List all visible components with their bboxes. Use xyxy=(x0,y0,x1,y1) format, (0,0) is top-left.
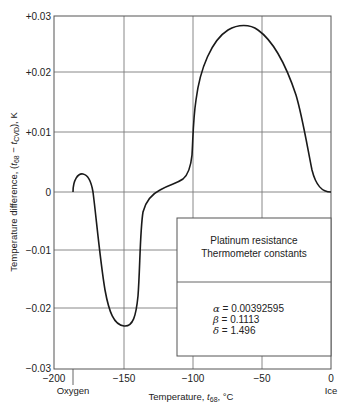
beta-value: = 0.1113 xyxy=(219,314,260,325)
delta-value: = 1.496 xyxy=(219,325,256,336)
chart-canvas: Platinum resistance Thermometer constant… xyxy=(0,0,347,409)
ice-label: Ice xyxy=(325,385,338,396)
y-axis-label-sub2: CVD xyxy=(13,127,20,142)
x-tick-labels: −200 −150 −100 −50 0 xyxy=(43,373,334,384)
x-tick-label: −200 xyxy=(43,373,66,384)
x-axis-label-sub: 68 xyxy=(210,396,218,403)
y-tick-label: 0 xyxy=(45,187,51,198)
y-tick-labels: +0.03 +0.02 +0.01 0 −0.01 −0.02 −0.03 xyxy=(26,11,52,374)
constant-alpha: α = 0.00392595 xyxy=(213,303,284,314)
constant-beta: β = 0.1113 xyxy=(212,314,260,325)
y-axis-label-minus: − xyxy=(8,144,19,155)
x-tick-label: −100 xyxy=(182,373,205,384)
y-tick-label: +0.01 xyxy=(26,127,52,138)
y-axis-label-unit: ), K xyxy=(8,112,19,127)
y-tick-label: −0.01 xyxy=(26,245,52,256)
constant-delta: δ = 1.496 xyxy=(213,325,256,336)
y-tick-label: −0.02 xyxy=(26,303,52,314)
constants-box: Platinum resistance Thermometer constant… xyxy=(177,218,331,356)
y-axis-label-sub1: 68 xyxy=(13,155,20,163)
x-axis-label-text: Temperature, xyxy=(148,391,207,402)
x-tick-label: 0 xyxy=(328,373,334,384)
x-tick-label: −150 xyxy=(113,373,136,384)
x-axis-label: Temperature, t68, °C xyxy=(148,391,233,403)
y-tick-label: +0.03 xyxy=(26,11,52,22)
y-tick-label: +0.02 xyxy=(26,67,52,78)
alpha-value: = 0.00392595 xyxy=(220,303,285,314)
constants-box-title-line1: Platinum resistance xyxy=(210,235,298,246)
x-axis-label-unit: , °C xyxy=(218,391,234,402)
x-tick-label: −50 xyxy=(254,373,271,384)
y-axis-label: Temperature difference, (t68 − tCVD), K xyxy=(8,112,20,272)
constants-box-title-line2: Thermometer constants xyxy=(201,248,307,259)
y-axis-label-text: Temperature difference, ( xyxy=(8,165,19,272)
oxygen-label: Oxygen xyxy=(57,385,90,396)
